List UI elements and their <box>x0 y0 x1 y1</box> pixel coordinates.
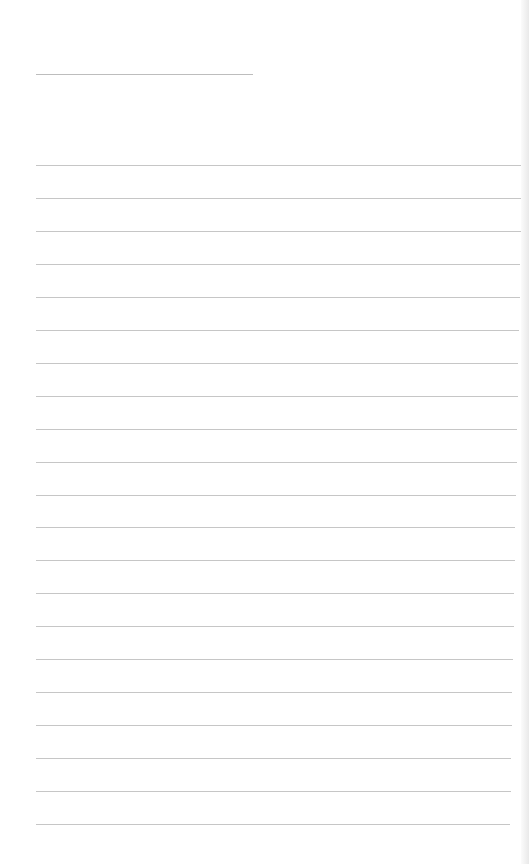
ruled-line <box>36 198 521 199</box>
ruled-line <box>36 593 514 594</box>
ruled-line <box>36 330 519 331</box>
ruled-line <box>36 527 515 528</box>
ruled-line <box>36 824 510 825</box>
ruled-line <box>36 495 516 496</box>
ruled-line <box>36 692 512 693</box>
ruled-line <box>36 165 522 166</box>
ruled-line <box>36 429 517 430</box>
ruled-line <box>36 560 515 561</box>
ruled-line <box>36 725 512 726</box>
ruled-line <box>36 758 511 759</box>
title-line <box>36 74 253 75</box>
ruled-line <box>36 396 518 397</box>
ruled-line <box>36 231 521 232</box>
ruled-line <box>36 791 511 792</box>
ruled-line <box>36 626 514 627</box>
ruled-line <box>36 363 518 364</box>
ruled-line <box>36 264 520 265</box>
page-edge-shadow <box>521 0 529 864</box>
ruled-line <box>36 659 513 660</box>
ruled-line <box>36 462 517 463</box>
note-paper-sheet <box>0 0 524 864</box>
ruled-line <box>36 297 520 298</box>
